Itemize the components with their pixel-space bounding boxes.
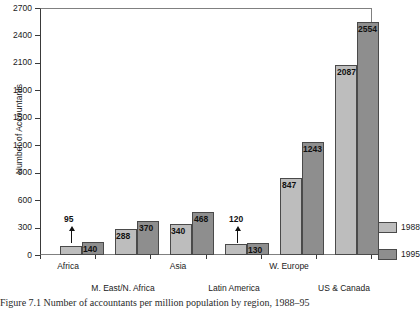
bar-uscanada-1995[interactable] xyxy=(357,22,379,255)
callout-arrow-95 xyxy=(71,230,72,243)
y-tick-label-600: 600 xyxy=(0,196,32,205)
y-axis-title: Number of Accountants xyxy=(14,49,24,209)
callout-arrow-120 xyxy=(237,230,238,243)
callout-value-120: 120 xyxy=(229,215,243,224)
y-tick-label-0: 0 xyxy=(0,251,32,260)
x-label-africa: Africa xyxy=(57,261,79,271)
x-label-us-canada: US & Canada xyxy=(318,283,370,293)
value-label-latam-1995: 130 xyxy=(248,246,262,255)
x-label-latin-america: Latin America xyxy=(208,283,260,293)
x-label-asia: Asia xyxy=(170,261,187,271)
value-label-weurope-1988: 847 xyxy=(282,181,296,190)
legend-swatch-1995 xyxy=(378,249,397,260)
legend-label-1995: 1995 xyxy=(401,250,420,259)
value-label-weurope-1995: 1243 xyxy=(303,145,322,154)
value-label-uscanada-1995: 2554 xyxy=(358,25,377,34)
y-tick-label-900: 900 xyxy=(0,168,32,177)
y-tick-label-2700: 2700 xyxy=(0,4,32,13)
y-tick-label-1800: 1800 xyxy=(0,86,32,95)
x-tick-mark-6 xyxy=(371,255,372,259)
legend-swatch-1988 xyxy=(378,222,397,233)
x-label-w-europe: W. Europe xyxy=(269,261,309,271)
bar-uscanada-1988[interactable] xyxy=(335,65,357,255)
y-tick-label-1200: 1200 xyxy=(0,141,32,150)
y-tick-label-1500: 1500 xyxy=(0,113,32,122)
x-tick-mark-3 xyxy=(206,255,207,259)
x-tick-mark-4 xyxy=(261,255,262,259)
legend-item-1988[interactable]: 1988 xyxy=(378,222,420,233)
y-tick-label-300: 300 xyxy=(0,223,32,232)
legend-label-1988: 1988 xyxy=(401,223,420,232)
x-tick-mark-1 xyxy=(95,255,96,259)
value-label-asia-1988: 340 xyxy=(171,227,185,236)
x-label-m-east-n-africa: M. East/N. Africa xyxy=(91,283,154,293)
bar-latam-1988[interactable] xyxy=(225,244,247,255)
value-label-uscanada-1988: 2087 xyxy=(337,68,356,77)
value-label-meast-1995: 370 xyxy=(139,224,153,233)
bar-weurope-1995[interactable] xyxy=(302,142,324,255)
value-label-africa-1995: 140 xyxy=(83,245,97,254)
x-tick-mark-0 xyxy=(40,255,41,259)
y-tick-label-2100: 2100 xyxy=(0,58,32,67)
bar-africa-1988[interactable] xyxy=(60,246,82,255)
value-label-asia-1995: 468 xyxy=(194,215,208,224)
x-tick-mark-5 xyxy=(316,255,317,259)
x-tick-mark-2 xyxy=(150,255,151,259)
y-tick-label-2400: 2400 xyxy=(0,31,32,40)
figure-caption: Figure 7.1 Number of accountants per mil… xyxy=(0,297,418,309)
legend-item-1995[interactable]: 1995 xyxy=(378,249,420,260)
value-label-meast-1988: 288 xyxy=(116,232,130,241)
callout-value-95: 95 xyxy=(64,215,73,224)
